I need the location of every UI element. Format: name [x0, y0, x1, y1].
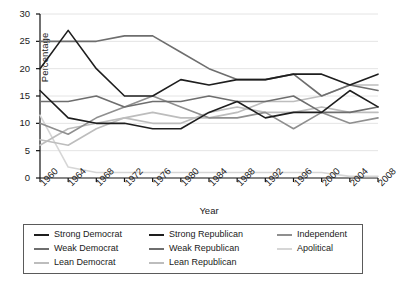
- y-axis-tick-label: 20: [8, 64, 30, 74]
- legend-entry-weak-republican[interactable]: Weak Republican: [149, 242, 243, 255]
- legend-swatch-icon: [277, 248, 292, 250]
- legend-label: Apolitical: [297, 244, 333, 253]
- series-line-weak-democrat: [40, 36, 378, 96]
- legend-swatch-icon: [34, 234, 49, 236]
- legend-swatch-icon: [34, 262, 49, 264]
- plot-area: [40, 14, 378, 178]
- legend-entry-apolitical[interactable]: Apolitical: [277, 242, 347, 255]
- legend-entry-independent[interactable]: Independent: [277, 228, 347, 241]
- legend-entry-weak-democrat[interactable]: Weak Democrat: [34, 242, 122, 255]
- legend-column: Strong RepublicanWeak RepublicanLean Rep…: [149, 228, 243, 270]
- legend-label: Weak Republican: [169, 244, 239, 253]
- legend-label: Independent: [297, 230, 347, 239]
- x-axis-title: Year: [40, 205, 378, 216]
- legend-entry-lean-democrat[interactable]: Lean Democrat: [34, 256, 122, 269]
- y-axis-tick-label: 0: [8, 173, 30, 183]
- legend-swatch-icon: [149, 234, 164, 236]
- y-axis-tick-label: 30: [8, 9, 30, 19]
- legend-entry-lean-republican[interactable]: Lean Republican: [149, 256, 243, 269]
- legend-swatch-icon: [34, 248, 49, 250]
- legend-swatch-icon: [149, 262, 164, 264]
- legend-label: Weak Democrat: [54, 244, 118, 253]
- x-axis-tick-label: 2008: [376, 166, 398, 188]
- legend-label: Strong Republican: [169, 230, 243, 239]
- y-axis-tick-label: 25: [8, 36, 30, 46]
- legend-column: Strong DemocratWeak DemocratLean Democra…: [34, 228, 122, 270]
- legend-column: IndependentApolitical: [277, 228, 347, 256]
- series-line-independent: [40, 96, 378, 134]
- y-axis-tick-labels: 051015202530: [8, 14, 30, 178]
- y-axis-tick-label: 10: [8, 118, 30, 128]
- y-axis-tick-label: 5: [8, 146, 30, 156]
- series-line-strong-democrat: [40, 30, 378, 96]
- y-axis-tick-label: 15: [8, 91, 30, 101]
- legend-label: Lean Democrat: [54, 258, 116, 267]
- legend-swatch-icon: [277, 234, 292, 236]
- legend-entry-strong-democrat[interactable]: Strong Democrat: [34, 228, 122, 241]
- chart-legend: Strong DemocratWeak DemocratLean Democra…: [23, 224, 363, 274]
- legend-swatch-icon: [149, 248, 164, 250]
- plot-svg: [40, 14, 378, 178]
- legend-entry-strong-republican[interactable]: Strong Republican: [149, 228, 243, 241]
- legend-label: Strong Democrat: [54, 230, 122, 239]
- legend-label: Lean Republican: [169, 258, 237, 267]
- series-line-weak-republican: [40, 96, 378, 112]
